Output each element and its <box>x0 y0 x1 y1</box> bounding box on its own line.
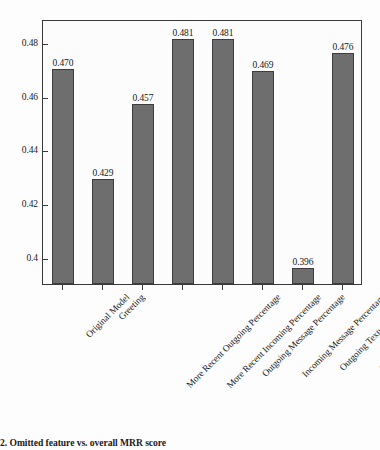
y-tick-mark <box>43 151 48 152</box>
bar-value-label: 0.470 <box>43 58 83 68</box>
bar <box>212 39 234 284</box>
bar-value-label: 0.481 <box>163 28 203 38</box>
y-tick-label: 0.44 <box>22 145 38 155</box>
y-tick-label: 0.42 <box>22 199 38 209</box>
bar-value-label: 0.476 <box>323 42 363 52</box>
y-tick-mark <box>43 259 48 260</box>
bar <box>292 268 314 284</box>
bar <box>52 69 74 284</box>
figure-container: 0.480.460.440.420.4 0.4700.4290.4570.481… <box>0 0 380 450</box>
bar-value-label: 0.457 <box>123 93 163 103</box>
y-tick-label: 0.4 <box>26 253 38 263</box>
x-tick-mark <box>222 285 223 290</box>
caption-text: Omitted feature vs. overall MRR score <box>9 437 166 448</box>
bar-value-label: 0.429 <box>83 168 123 178</box>
y-tick-label: 0.48 <box>22 38 38 48</box>
x-tick-mark <box>302 285 303 290</box>
caption-number: 2. <box>0 437 7 448</box>
x-axis-ticks <box>42 285 362 291</box>
x-tick-mark <box>142 285 143 290</box>
y-tick-mark <box>43 44 48 45</box>
figure-caption: 2. Omitted feature vs. overall MRR score <box>0 437 380 448</box>
bar <box>332 53 354 284</box>
bar <box>172 39 194 284</box>
x-axis-labels: Original ModelGreetingMore Recent Outgoi… <box>42 292 380 422</box>
bar <box>252 71 274 284</box>
x-tick-mark <box>102 285 103 290</box>
bar-value-label: 0.396 <box>283 257 323 267</box>
bars-layer: 0.4700.4290.4570.4810.4810.4690.3960.476 <box>43 21 361 284</box>
bar-value-label: 0.481 <box>203 28 243 38</box>
bar <box>92 179 114 284</box>
x-tick-mark <box>342 285 343 290</box>
y-tick-mark <box>43 205 48 206</box>
bar-value-label: 0.469 <box>243 60 283 70</box>
x-tick-mark <box>262 285 263 290</box>
bar <box>132 104 154 284</box>
y-tick-label: 0.46 <box>22 92 38 102</box>
plot-area: 0.4700.4290.4570.4810.4810.4690.3960.476 <box>42 20 362 285</box>
x-tick-mark <box>182 285 183 290</box>
y-tick-mark <box>43 98 48 99</box>
x-tick-mark <box>62 285 63 290</box>
y-axis: 0.480.460.440.420.4 <box>0 20 38 285</box>
